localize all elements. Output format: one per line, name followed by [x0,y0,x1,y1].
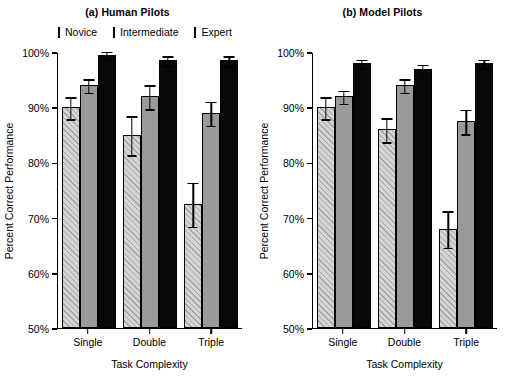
error-bar-cap-top [443,211,454,213]
y-tick-label: 70% [283,214,307,224]
error-bar-line [386,118,387,142]
legend-label-expert: Expert [201,26,231,38]
error-bar-cap-bottom [357,68,366,70]
x-tick-label-double: Double [388,336,421,348]
legend-entry-intermediate: Intermediate [113,26,178,38]
x-tick-label-triple: Triple [453,336,479,348]
bar-triple-expert[interactable] [220,53,238,328]
error-bar-line [193,183,194,227]
bar-single-expert[interactable] [353,53,371,328]
plot-area-b [312,53,497,329]
error-bar-cap-top [65,97,76,99]
x-tick-label-triple: Triple [198,336,224,348]
error-bar-cap-bottom [189,227,198,229]
bar-single-novice[interactable] [62,53,80,328]
bar-rect [317,107,335,328]
bar-rect [457,121,475,328]
bar-double-intermediate[interactable] [396,53,414,328]
y-tick-label: 90% [28,103,52,113]
error-bar-cap-bottom [127,155,136,157]
y-tick-label: 90% [283,103,307,113]
bar-group-single [317,53,371,328]
bar-double-expert[interactable] [159,53,177,328]
x-tick-label-single: Single [328,336,357,348]
error-bar-cap-top [126,116,137,118]
bar-single-intermediate[interactable] [335,53,353,328]
error-bar-cap-bottom [321,119,330,121]
bar-rect [159,60,177,328]
error-bar-cap-top [320,97,331,99]
bar-triple-novice[interactable] [184,53,202,328]
error-bar-cap-top [461,110,472,112]
panel-title-a: (a) Human Pilots [0,6,255,18]
error-bar-cap-bottom [225,66,234,68]
error-bar-cap-bottom [418,75,427,77]
bar-single-novice[interactable] [317,53,335,328]
y-tick-label: 60% [28,269,52,279]
bar-single-expert[interactable] [98,53,116,328]
error-bar-cap-bottom [163,66,172,68]
y-axis-ticks-a: 50%60%70%80%90%100% [0,53,57,329]
bar-double-expert[interactable] [414,53,432,328]
bar-rect [378,129,396,328]
bar-rect [80,85,98,328]
x-tick-label-double: Double [133,336,166,348]
bar-single-intermediate[interactable] [80,53,98,328]
y-tick-label: 100% [277,48,307,58]
error-bar-cap-top [188,183,199,185]
error-bar-cap-top [101,52,112,54]
bar-group-double [378,53,432,328]
x-tick-mark [342,329,344,334]
error-bar-cap-bottom [400,93,409,95]
x-axis-categories-b: SingleDoubleTriple [312,336,497,350]
bar-rect [62,107,80,328]
bar-double-novice[interactable] [378,53,396,328]
bar-triple-expert[interactable] [475,53,493,328]
bar-double-intermediate[interactable] [141,53,159,328]
x-tick-mark [149,329,151,334]
panel-title-b: (b) Model Pilots [255,6,510,18]
x-tick-mark [404,329,406,334]
legend-label-novice: Novice [65,26,97,38]
error-bar-cap-top [144,85,155,87]
error-bar-line [131,116,132,155]
x-tick-mark [210,329,212,334]
bar-rect [123,135,141,328]
bar-rect [141,96,159,328]
bar-rect [396,85,414,328]
error-bar-cap-top [381,118,392,120]
legend-entry-expert: Expert [194,26,231,38]
error-bar-cap-top [206,102,217,104]
bar-triple-intermediate[interactable] [457,53,475,328]
bar-rect [220,60,238,328]
y-tick-label: 80% [283,158,307,168]
legend: Novice Intermediate Expert [58,26,498,38]
error-bar-cap-top [224,56,235,58]
error-bar-cap-top [83,79,94,81]
error-bar-line [343,91,344,104]
legend-swatch-intermediate-icon [113,27,115,38]
bar-group-single [62,53,116,328]
bar-double-novice[interactable] [123,53,141,328]
error-bar-cap-top [338,91,349,93]
error-bar-cap-bottom [462,134,471,136]
error-bar-line [448,211,449,247]
bar-triple-intermediate[interactable] [202,53,220,328]
error-bar-cap-bottom [339,104,348,106]
x-axis-label-a: Task Complexity [57,358,242,370]
error-bar-line [88,79,89,92]
error-bar-cap-bottom [480,68,489,70]
x-tick-mark [87,329,89,334]
bar-triple-novice[interactable] [439,53,457,328]
legend-entry-novice: Novice [58,26,97,38]
legend-swatch-expert-icon [194,27,196,38]
error-bar-cap-bottom [145,109,154,111]
error-bar-line [466,110,467,134]
panel-model-pilots: (b) Model Pilots Percent Correct Perform… [255,0,510,381]
x-tick-mark [465,329,467,334]
x-axis-label-b: Task Complexity [312,358,497,370]
x-tick-label-single: Single [73,336,102,348]
bar-rect [335,96,353,328]
error-bar-line [211,102,212,126]
y-axis-ticks-b: 50%60%70%80%90%100% [255,53,312,329]
